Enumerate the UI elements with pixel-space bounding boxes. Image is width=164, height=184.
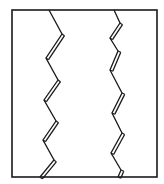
background <box>0 0 164 184</box>
zigzag-diagram <box>0 0 164 184</box>
